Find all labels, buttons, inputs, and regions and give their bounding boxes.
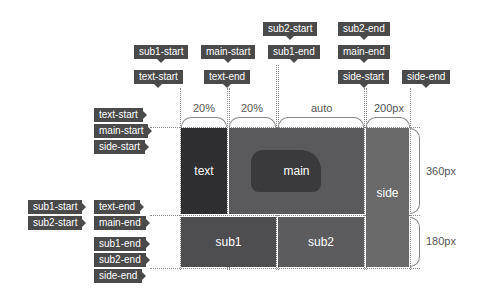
grid-area-main: main xyxy=(229,128,364,214)
area-label-side: side xyxy=(376,186,398,200)
line-tag-sub1-start-left: sub1-start xyxy=(28,200,82,214)
line-tag-sub1-end-left: sub1-end xyxy=(94,237,146,251)
line-tag-sub2-end-left: sub2-end xyxy=(94,253,146,267)
grid-area-side: side xyxy=(366,128,409,267)
area-label-sub1: sub1 xyxy=(215,235,241,249)
line-tag-side-end-top: side-end xyxy=(402,70,450,84)
col-arc-1 xyxy=(181,117,227,127)
line-tag-sub2-start-top: sub2-start xyxy=(263,22,317,36)
line-tag-main-start-top: main-start xyxy=(201,45,255,59)
line-tag-side-start-top: side-start xyxy=(338,70,389,84)
row-arc-1 xyxy=(410,128,420,214)
grid-area-text: text xyxy=(181,128,227,214)
line-tag-side-end-left: side-end xyxy=(94,269,142,283)
row-size-1: 360px xyxy=(426,165,456,177)
line-tag-text-end-left: text-end xyxy=(94,200,140,214)
col-arc-3 xyxy=(278,117,364,127)
line-tag-main-end-left: main-end xyxy=(94,216,146,230)
line-tag-text-start-left: text-start xyxy=(94,108,143,122)
row-size-2: 180px xyxy=(426,235,456,247)
line-tag-sub1-start-top: sub1-start xyxy=(134,45,188,59)
line-tag-sub2-end-top: sub2-end xyxy=(338,22,390,36)
row-arc-2 xyxy=(410,217,420,267)
grid-area-sub1: sub1 xyxy=(181,217,276,267)
area-label-main: main xyxy=(283,164,309,178)
line-tag-main-end-top: main-end xyxy=(338,45,390,59)
guide-col-4 xyxy=(364,88,365,270)
line-tag-text-end-top: text-end xyxy=(204,70,250,84)
col-size-3: auto xyxy=(311,102,332,114)
line-tag-main-start-left: main-start xyxy=(94,124,148,138)
col-size-4: 200px xyxy=(374,102,404,114)
col-size-1: 20% xyxy=(193,102,215,114)
col-arc-2 xyxy=(229,117,276,127)
area-label-text: text xyxy=(194,164,213,178)
line-tag-side-start-left: side-start xyxy=(94,140,145,154)
col-size-2: 20% xyxy=(241,102,263,114)
area-label-sub2: sub2 xyxy=(308,235,334,249)
line-tag-sub1-end-top: sub1-end xyxy=(268,45,320,59)
guide-row-3 xyxy=(150,268,420,269)
grid-area-sub2: sub2 xyxy=(278,217,364,267)
line-tag-sub2-start-left: sub2-start xyxy=(28,216,82,230)
line-tag-text-start-top: text-start xyxy=(134,70,183,84)
col-arc-4 xyxy=(366,117,410,127)
